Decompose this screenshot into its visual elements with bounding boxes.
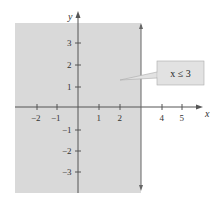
y-axis-arrow-icon bbox=[76, 11, 81, 18]
y-tick-label: 2 bbox=[67, 60, 72, 70]
y-tick-label: 3 bbox=[67, 38, 72, 48]
y-axis-label: y bbox=[67, 11, 73, 22]
y-tick-label: −3 bbox=[62, 167, 72, 177]
x-tick-label: −2 bbox=[31, 113, 41, 123]
x-tick-label: 5 bbox=[180, 113, 185, 123]
x-axis-label: x bbox=[204, 108, 210, 119]
y-tick-label: 1 bbox=[67, 82, 72, 92]
inequality-label: x ≤ 3 bbox=[170, 68, 191, 79]
x-tick-label: 2 bbox=[118, 113, 123, 123]
x-axis-arrow-icon bbox=[196, 105, 203, 110]
y-tick-label: −2 bbox=[62, 146, 72, 156]
x-tick-label: 4 bbox=[160, 113, 165, 123]
inequality-graph: x y −2 −1 1 2 4 5 3 2 1 −1 −2 −3 x ≤ 3 bbox=[0, 0, 214, 203]
y-tick-label: −1 bbox=[62, 125, 72, 135]
x-tick-label: 1 bbox=[97, 113, 102, 123]
x-tick-label: −1 bbox=[51, 113, 61, 123]
